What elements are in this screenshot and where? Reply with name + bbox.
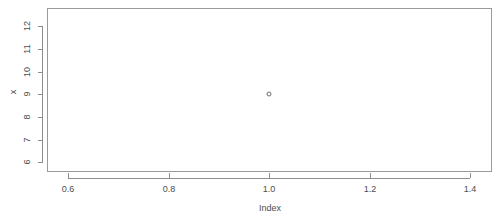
x-axis-title: Index — [259, 203, 281, 213]
x-axis-tick-label: 0.8 — [163, 185, 176, 194]
x-axis-tick — [269, 173, 270, 178]
y-axis-tick — [38, 117, 43, 118]
x-axis-tick — [68, 173, 69, 178]
x-axis-tick — [169, 173, 170, 178]
plot-canvas: 0.6 0.8 1.0 1.2 1.4 12 11 10 9 8 7 6 Ind… — [0, 0, 504, 222]
y-axis-tick-label: 7 — [23, 137, 32, 142]
y-axis-tick — [38, 49, 43, 50]
y-axis-tick — [38, 94, 43, 95]
y-axis-tick-label: 11 — [23, 44, 32, 53]
x-axis-tick-label: 0.6 — [62, 185, 75, 194]
y-axis-tick — [38, 162, 43, 163]
y-axis-tick-label: 8 — [23, 114, 32, 119]
x-axis-tick-label: 1.2 — [364, 185, 377, 194]
y-axis-tick-label: 10 — [23, 67, 32, 77]
x-axis-tick-label: 1.4 — [464, 185, 477, 194]
x-axis-tick — [370, 173, 371, 178]
y-axis-tick-label: 12 — [23, 21, 32, 31]
y-axis-tick — [38, 140, 43, 141]
x-axis-tick-label: 1.0 — [263, 185, 276, 194]
y-axis-tick-label: 6 — [23, 159, 32, 164]
x-axis-line — [68, 178, 470, 179]
x-axis-tick — [470, 173, 471, 178]
y-axis-tick-label: 9 — [23, 91, 32, 96]
y-axis-tick — [38, 26, 43, 27]
data-point-marker — [267, 92, 272, 97]
y-axis-title: x — [8, 90, 18, 95]
y-axis-tick — [38, 72, 43, 73]
plot-area-box — [47, 8, 492, 172]
